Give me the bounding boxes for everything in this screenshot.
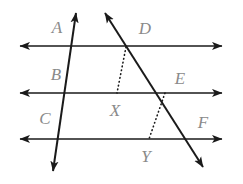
right-transversal — [105, 13, 203, 167]
point-label-X: X — [110, 102, 120, 119]
left-transversal — [53, 13, 76, 171]
transversal-lines-group — [53, 13, 203, 171]
dotted-segment-EY — [149, 93, 165, 139]
point-label-D: D — [139, 20, 151, 37]
point-label-A: A — [52, 19, 62, 36]
point-label-E: E — [175, 70, 185, 87]
point-label-F: F — [198, 114, 208, 131]
point-label-Y: Y — [141, 148, 150, 165]
point-label-C: C — [39, 110, 50, 127]
point-label-B: B — [51, 66, 61, 83]
geometry-canvas — [0, 0, 243, 184]
dotted-segment-DX — [117, 47, 126, 93]
geometry-figure: A D B E C F X Y — [0, 0, 243, 184]
